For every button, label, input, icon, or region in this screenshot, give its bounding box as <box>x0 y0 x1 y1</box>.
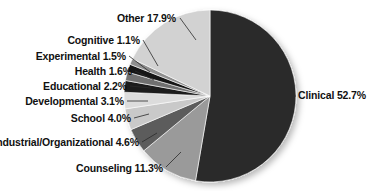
slice-label-clinical: Clinical 52.7% <box>298 89 367 101</box>
slice-label-counseling: Counseling 11.3% <box>76 162 164 174</box>
slice-label-developmental: Developmental 3.1% <box>25 95 125 107</box>
slice-label-school: School 4.0% <box>71 112 132 124</box>
pie-slices <box>124 10 296 182</box>
slice-label-experimental: Experimental 1.5% <box>36 50 127 62</box>
slice-label-cognitive: Cognitive 1.1% <box>67 34 140 46</box>
pie-chart-svg: Clinical 52.7%Counseling 11.3%Industrial… <box>0 0 375 191</box>
pie-chart-figure: Clinical 52.7%Counseling 11.3%Industrial… <box>0 0 375 191</box>
pie-slice-clinical[interactable] <box>195 10 295 182</box>
slice-label-other: Other 17.9% <box>117 12 177 24</box>
slice-label-health: Health 1.6% <box>75 65 133 77</box>
slice-label-industrial-organizational: Industrial/Organizational 4.6% <box>0 136 140 148</box>
slice-label-educational: Educational 2.2% <box>43 80 128 92</box>
